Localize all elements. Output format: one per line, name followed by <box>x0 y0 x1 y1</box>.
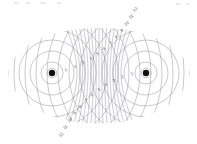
scan-speck <box>26 2 30 4</box>
right-source-dot <box>143 70 149 76</box>
left-source-dot <box>49 70 55 76</box>
interference-figure: 123456789101112123456789101112 <box>0 0 197 144</box>
scan-speck <box>186 3 189 5</box>
scan-speck <box>57 2 61 4</box>
scan-speck <box>14 2 19 4</box>
scan-speck <box>40 2 46 4</box>
interference-diagram: 123456789101112123456789101112 <box>0 0 197 144</box>
figure-background <box>0 0 197 144</box>
scan-speck <box>176 3 180 5</box>
